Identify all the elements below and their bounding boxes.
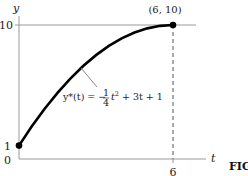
x-axis-label: t [211, 152, 216, 165]
equation-lhs: y*(t) = − [62, 91, 106, 102]
point-label: (6, 10) [148, 4, 181, 15]
equation-label: y*(t) = − [62, 91, 106, 102]
x-tick-label-6: 6 [170, 166, 177, 176]
equation-frac-den: 4 [103, 97, 109, 108]
equation-rhs: t2 + 3t + 1 [111, 90, 163, 102]
labels-group: 10106yt(6, 10)y*(t) = −14t2 + 3t + 1FIG [0, 2, 248, 176]
y-axis-label: y [12, 2, 20, 15]
y-tick-label-1: 1 [4, 140, 11, 153]
x-tick-label-0: 0 [4, 154, 11, 167]
axes [15, 16, 206, 163]
equation-leader-line [81, 68, 97, 87]
figure-label: FIG [229, 160, 248, 173]
y-tick-label-10: 10 [0, 19, 13, 32]
end-point [170, 22, 177, 29]
chart: 10106yt(6, 10)y*(t) = −14t2 + 3t + 1FIG [0, 0, 248, 176]
start-point [16, 142, 23, 149]
